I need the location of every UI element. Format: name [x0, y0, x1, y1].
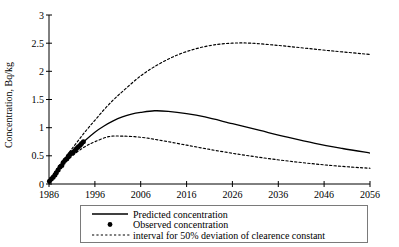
y-tick-label: 1.5 [32, 94, 45, 105]
deviation-interval-upper-curve [49, 43, 370, 181]
y-tick-label: 3 [39, 10, 44, 21]
chart-figure: Concentration, Bq/kg 3 2.5 2 1.5 1 0.5 0 [0, 0, 399, 247]
plot-curves [49, 43, 370, 181]
x-tick-label: 2026 [222, 189, 242, 200]
deviation-interval-lower-curve [49, 136, 370, 181]
x-tick-label: 2036 [268, 189, 288, 200]
x-tick-label: 2016 [177, 189, 197, 200]
chart-svg: Concentration, Bq/kg 3 2.5 2 1.5 1 0.5 0 [0, 0, 399, 247]
legend-label: Observed concentration [133, 219, 228, 230]
y-tick-label: 0.5 [32, 150, 45, 161]
x-tick-label: 1986 [39, 189, 59, 200]
predicted-concentration-curve [49, 111, 370, 181]
x-tick-label: 2056 [360, 189, 380, 200]
y-tick-label: 2.5 [32, 38, 45, 49]
legend-marker-dot [108, 222, 113, 227]
y-tick-labels: 3 2.5 2 1.5 1 0.5 0 [32, 10, 45, 190]
y-axis-label: Concentration, Bq/kg [3, 62, 14, 148]
data-point [81, 139, 86, 144]
observed-data-points [47, 139, 86, 183]
x-tick-label: 2006 [131, 189, 151, 200]
legend-label: interval for 50% deviation of clearence … [133, 230, 325, 241]
legend-label: Predicted concentration [133, 209, 228, 220]
chart-legend: Predicted concentration Observed concent… [81, 206, 368, 243]
x-tick-label: 1996 [85, 189, 105, 200]
y-tick-label: 2 [39, 66, 44, 77]
x-tick-label: 2046 [314, 189, 334, 200]
y-tick-label: 1 [39, 122, 44, 133]
x-tick-labels: 1986 1996 2006 2016 2026 2036 2046 2056 [39, 189, 380, 200]
